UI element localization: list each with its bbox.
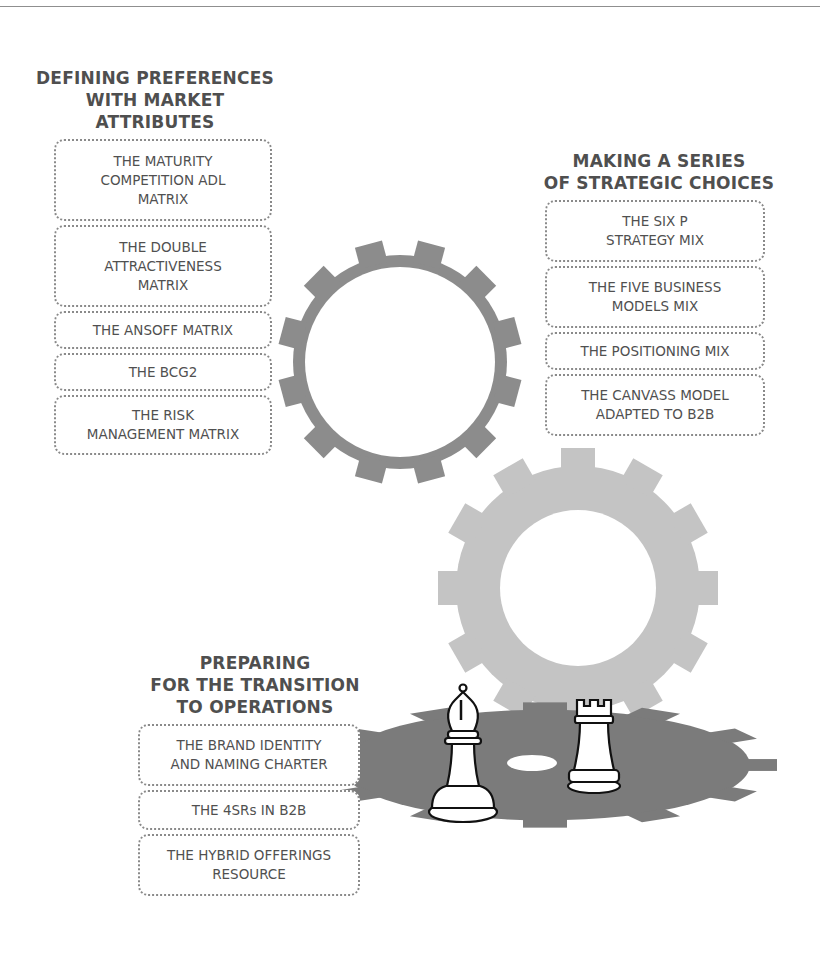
tool-box-ansoff-matrix: THE ANSOFF MATRIX [54, 311, 272, 349]
group-title: DEFINING PREFERENCES WITH MARKET ATTRIBU… [30, 67, 280, 133]
tool-box-five-business-models-mix: THE FIVE BUSINESS MODELS MIX [545, 266, 765, 328]
tool-box-risk-management-matrix: THE RISK MANAGEMENT MATRIX [54, 395, 272, 455]
gear-icon-light [438, 448, 718, 728]
tool-box-maturity-competition-adl-matrix: THE MATURITY COMPETITION ADL MATRIX [54, 139, 272, 221]
tool-box-brand-identity-naming-charter: THE BRAND IDENTITY AND NAMING CHARTER [138, 724, 360, 786]
group-transition-to-operations: PREPARING FOR THE TRANSITION TO OPERATIO… [130, 652, 380, 900]
gear-icon-base [313, 702, 777, 827]
gear-icon-dark [279, 241, 522, 484]
group-title: MAKING A SERIES OF STRATEGIC CHOICES [528, 150, 790, 194]
tool-box-six-p-strategy-mix: THE SIX P STRATEGY MIX [545, 200, 765, 262]
tool-box-4srs-in-b2b: THE 4SRs IN B2B [138, 790, 360, 830]
tool-box-hybrid-offerings-resource: THE HYBRID OFFERINGS RESOURCE [138, 834, 360, 896]
group-strategic-choices: MAKING A SERIES OF STRATEGIC CHOICES THE… [528, 150, 790, 440]
tool-box-positioning-mix: THE POSITIONING MIX [545, 332, 765, 370]
tool-box-bcg2: THE BCG2 [54, 353, 272, 391]
group-title: PREPARING FOR THE TRANSITION TO OPERATIO… [130, 652, 380, 718]
tool-box-canvass-model-b2b: THE CANVASS MODEL ADAPTED TO B2B [545, 374, 765, 436]
tool-box-double-attractiveness-matrix: THE DOUBLE ATTRACTIVENESS MATRIX [54, 225, 272, 307]
group-market-attributes: DEFINING PREFERENCES WITH MARKET ATTRIBU… [30, 67, 280, 459]
